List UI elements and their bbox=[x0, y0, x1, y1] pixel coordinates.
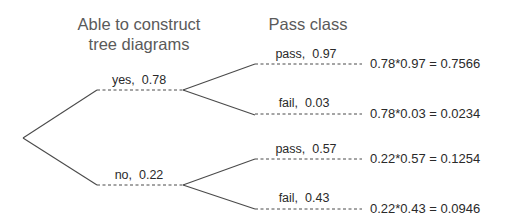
leaf-yes-pass-label: pass, 0.97 bbox=[275, 47, 336, 61]
leaf-no-fail-result: 0.22*0.43 = 0.0946 bbox=[370, 201, 480, 216]
header-pass-class: Pass class bbox=[269, 15, 348, 33]
leaf-yes-pass: pass, 0.97 0.78*0.97 = 0.7566 bbox=[255, 47, 480, 71]
leaf-no-pass-label: pass, 0.57 bbox=[275, 142, 336, 156]
edge-root-yes bbox=[23, 90, 97, 138]
node-no-label: no, 0.22 bbox=[115, 168, 164, 182]
leaf-no-fail-label: fail, 0.43 bbox=[279, 191, 330, 205]
node-no: no, 0.22 bbox=[97, 159, 255, 209]
leaf-yes-fail: fail, 0.03 0.78*0.03 = 0.0234 bbox=[255, 96, 480, 121]
edge-no-pass bbox=[183, 159, 255, 185]
root-branches bbox=[23, 90, 97, 185]
leaf-yes-fail-result: 0.78*0.03 = 0.0234 bbox=[370, 106, 480, 121]
leaf-yes-pass-result: 0.78*0.97 = 0.7566 bbox=[370, 56, 480, 71]
tree-diagram: Able to construct tree diagrams Pass cla… bbox=[0, 0, 522, 221]
edge-root-no bbox=[23, 138, 97, 185]
leaf-no-pass-result: 0.22*0.57 = 0.1254 bbox=[370, 151, 480, 166]
node-yes-label: yes, 0.78 bbox=[112, 73, 166, 87]
edge-no-fail bbox=[183, 185, 255, 209]
edge-yes-fail bbox=[183, 90, 255, 115]
leaf-no-fail: fail, 0.43 0.22*0.43 = 0.0946 bbox=[255, 191, 480, 216]
node-yes: yes, 0.78 bbox=[97, 64, 255, 115]
header-tree-diagrams: tree diagrams bbox=[89, 35, 190, 53]
leaf-yes-fail-label: fail, 0.03 bbox=[279, 96, 330, 110]
header-able-to-construct: Able to construct bbox=[78, 15, 201, 33]
edge-yes-pass bbox=[183, 64, 255, 90]
leaf-no-pass: pass, 0.57 0.22*0.57 = 0.1254 bbox=[255, 142, 480, 166]
